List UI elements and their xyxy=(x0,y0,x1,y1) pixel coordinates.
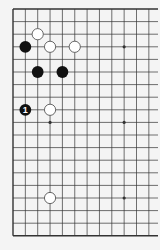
star-point xyxy=(123,45,126,48)
white-stone xyxy=(44,104,55,115)
black-stone xyxy=(19,41,31,53)
white-stone xyxy=(32,29,43,40)
go-board: 1 xyxy=(0,0,160,250)
white-stone xyxy=(44,192,55,203)
board-grid xyxy=(13,9,158,236)
white-stone xyxy=(44,41,55,52)
black-stone xyxy=(32,66,44,78)
star-point xyxy=(123,121,126,124)
move-number-label: 1 xyxy=(23,105,28,115)
black-stone: 1 xyxy=(19,104,31,116)
star-point xyxy=(48,121,51,124)
black-stone xyxy=(57,66,69,78)
white-stone xyxy=(69,41,80,52)
star-point xyxy=(123,196,126,199)
